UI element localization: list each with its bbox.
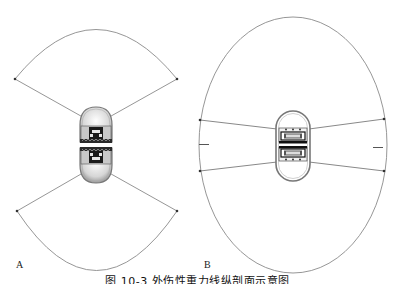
- panel-a: [14, 30, 179, 271]
- endpoint-dot: [176, 78, 179, 81]
- figure-caption: 图 10-3 外伤性重力线纵剖面示意图: [0, 275, 395, 284]
- panel-a-bottom-fan: [17, 170, 177, 271]
- endpoint-dot: [383, 118, 386, 121]
- endpoint-dot: [383, 170, 386, 173]
- panel-a-upper-device: [80, 107, 112, 143]
- endpoint-dot: [199, 119, 202, 122]
- endpoint-dot: [176, 210, 179, 213]
- panel-b: [199, 17, 387, 273]
- panel-b-left-mark: [199, 144, 209, 145]
- panel-b-device-pair: [276, 111, 310, 181]
- endpoint-dot: [199, 170, 202, 173]
- diagram-canvas: [0, 0, 395, 284]
- panel-a-label: A: [16, 259, 23, 270]
- endpoint-dot: [14, 78, 17, 81]
- endpoint-dot: [16, 210, 19, 213]
- panel-b-label: B: [204, 259, 211, 270]
- figure: A B 图 10-3 外伤性重力线纵剖面示意图: [0, 0, 395, 284]
- panel-b-right-mark: [373, 147, 383, 148]
- panel-a-lower-device: [80, 147, 112, 183]
